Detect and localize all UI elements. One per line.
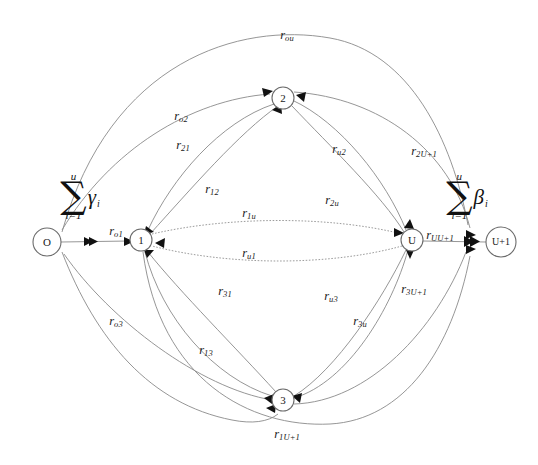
edge-r-3u bbox=[294, 250, 408, 398]
edge-label-r-12: r12 bbox=[205, 183, 219, 197]
arrowhead-o2 bbox=[262, 88, 273, 97]
edge-label-subscript: 1U+1 bbox=[279, 432, 300, 442]
edge-label-r-1u: r1u bbox=[242, 207, 256, 221]
beta-symbol: β bbox=[474, 184, 484, 208]
edge-r-31 bbox=[148, 252, 276, 392]
edge-group-node2 bbox=[62, 94, 406, 234]
node-Uplus1-label: U+1 bbox=[492, 236, 510, 247]
edge-label-r-3u: r3u bbox=[353, 315, 367, 329]
edge-label-subscript: o2 bbox=[179, 114, 188, 124]
node-O-label: O bbox=[43, 236, 51, 248]
edge-label-r-o3: ro3 bbox=[109, 315, 123, 329]
edge-label-subscript: u3 bbox=[329, 294, 338, 304]
edge-label-r-31: r31 bbox=[218, 285, 232, 299]
edge-group-node3 bbox=[64, 250, 466, 404]
edge-label-r-o2: ro2 bbox=[174, 110, 188, 124]
edge-label-subscript: o3 bbox=[114, 319, 123, 329]
edge-label-subscript: o1 bbox=[114, 229, 123, 239]
edge-label-subscript: 1u bbox=[247, 211, 256, 221]
sigma-icon: ∑ bbox=[60, 180, 86, 211]
edge-label-subscript: UU+1 bbox=[431, 233, 454, 243]
edge-label-subscript: 3u bbox=[358, 319, 367, 329]
edge-label-subscript: 21 bbox=[181, 143, 190, 153]
edge-r-1U1 bbox=[143, 252, 470, 424]
edge-r-1u bbox=[152, 221, 402, 235]
edge-r-2U1 bbox=[294, 92, 470, 228]
edge-label-r-21: r21 bbox=[176, 139, 190, 153]
edge-label-subscript: 3U+1 bbox=[406, 287, 427, 297]
edge-label-r-ou: rou bbox=[280, 29, 294, 43]
arrowhead-2u bbox=[404, 219, 414, 229]
edge-label-subscript: 31 bbox=[223, 289, 232, 299]
edge-label-r-u1: ru1 bbox=[242, 247, 256, 261]
edge-group-center bbox=[152, 221, 402, 262]
sink-summation: u ∑ i=1 βi bbox=[446, 171, 488, 221]
source-sum-body: γi bbox=[88, 184, 100, 209]
edge-label-r-u3: ru3 bbox=[324, 290, 338, 304]
arrowhead-u2 bbox=[296, 92, 306, 102]
node-3-label: 3 bbox=[280, 394, 286, 406]
edge-label-subscript: u1 bbox=[247, 251, 256, 261]
edge-label-subscript: 12 bbox=[210, 187, 219, 197]
source-sum-lower: i=1 bbox=[65, 210, 81, 221]
node-U-label: U bbox=[408, 234, 416, 246]
edge-label-r-u2: ru2 bbox=[332, 143, 346, 157]
edge-label-subscript: u2 bbox=[337, 147, 346, 157]
edge-label-r-3U1: r3U+1 bbox=[401, 283, 427, 297]
edge-label-subscript: ou bbox=[285, 33, 294, 43]
gamma-symbol: γ bbox=[88, 184, 96, 208]
edge-label-subscript: 2U+1 bbox=[416, 149, 437, 159]
node-2-label: 2 bbox=[280, 92, 286, 104]
arrowhead-31 bbox=[144, 250, 154, 258]
sink-sum-subscript: i bbox=[485, 197, 488, 208]
source-sigma-stack: u ∑ i=1 bbox=[60, 171, 86, 221]
edge-r-13 bbox=[145, 252, 272, 396]
edge-r-u3 bbox=[294, 250, 406, 396]
edge-label-r-2u: r2u bbox=[325, 194, 339, 208]
graph-canvas: O 1 2 3 U U+1 bbox=[0, 0, 538, 465]
node-1-label: 1 bbox=[138, 234, 144, 246]
edge-label-subscript: 2u bbox=[330, 198, 339, 208]
sink-sigma-stack: u ∑ i=1 bbox=[446, 171, 472, 221]
edge-label-r-1U1: r1U+1 bbox=[274, 428, 300, 442]
sink-sum-body: βi bbox=[474, 184, 488, 209]
edge-label-r-2U1: r2U+1 bbox=[411, 145, 437, 159]
edge-label-r-13: r13 bbox=[199, 344, 213, 358]
edge-r-2u bbox=[292, 106, 404, 232]
sigma-icon: ∑ bbox=[446, 180, 472, 211]
source-summation: u ∑ i=1 γi bbox=[60, 171, 99, 221]
transition-diagram: O 1 2 3 U U+1 u ∑ i=1 γi u ∑ i=1 bbox=[0, 0, 538, 465]
source-sum-subscript: i bbox=[97, 197, 100, 208]
arrowhead-gamma-b bbox=[89, 237, 98, 246]
edge-label-r-o1: ro1 bbox=[109, 225, 123, 239]
edge-label-r-UU1: rUU+1 bbox=[426, 229, 454, 243]
edge-r-u1 bbox=[152, 246, 402, 261]
edge-r-3U1 bbox=[294, 252, 466, 404]
edge-label-subscript: 13 bbox=[204, 348, 213, 358]
sink-sum-lower: i=1 bbox=[451, 210, 467, 221]
arrowhead-u1 bbox=[155, 238, 165, 248]
